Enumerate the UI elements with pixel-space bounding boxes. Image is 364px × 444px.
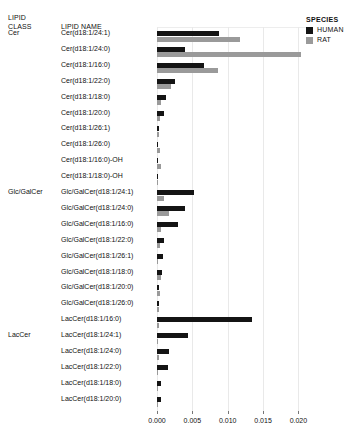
bar-human-Glc/GalCer(d18:1/24:1) <box>157 190 194 195</box>
x-tick-label-0.015: 0.015 <box>254 416 272 425</box>
bar-rat-Cer(d18:1/16:0) <box>157 68 218 73</box>
bar-human-Cer(d18:1/16:0)-OH <box>157 158 158 163</box>
bar-human-Glc/GalCer(d18:1/16:0) <box>157 222 178 227</box>
bar-rat-Glc/GalCer(d18:1/20:0) <box>157 291 160 296</box>
lipid-name-label: LacCer(d18:1/24:1) <box>61 331 121 339</box>
bar-rat-LacCer(d18:1/24:0) <box>157 355 159 360</box>
bar-human-LacCer(d18:1/20:0) <box>157 397 161 402</box>
lipid-class-label-laccer: LacCer <box>8 331 31 339</box>
gridline-0.020 <box>298 27 299 411</box>
lipid-name-label: Glc/GalCer(d18:1/26:0) <box>61 299 133 307</box>
legend-label-human: HUMAN <box>317 26 344 34</box>
lipid-name-label: LacCer(d18:1/20:0) <box>61 395 121 403</box>
bar-rat-Glc/GalCer(d18:1/26:0) <box>157 307 159 312</box>
bar-rat-Glc/GalCer(d18:1/18:0) <box>157 275 161 280</box>
column-header-lipid-class-line1: LIPID <box>8 14 56 23</box>
legend-item-human[interactable]: HUMAN <box>306 26 364 34</box>
lipid-name-label: Cer(d18:1/24:0) <box>61 45 110 53</box>
lipid-name-label: Cer(d18:1/18:0)-OH <box>61 172 123 180</box>
chart-root: LIPID CLASS LIPID NAME CerGlc/GalCerLacC… <box>0 0 364 444</box>
bar-rat-Glc/GalCer(d18:1/26:1) <box>157 259 158 264</box>
bar-rat-Glc/GalCer(d18:1/22:0) <box>157 243 160 248</box>
bar-human-Cer(d18:1/26:0) <box>157 142 158 147</box>
bar-rat-Glc/GalCer(d18:1/16:0) <box>157 227 161 232</box>
bar-rat-Glc/GalCer(d18:1/24:1) <box>157 196 164 201</box>
x-axis: 0.0000.0050.0100.0150.020 <box>157 411 309 435</box>
lipid-name-label: Glc/GalCer(d18:1/22:0) <box>61 236 133 244</box>
lipid-name-label: LacCer(d18:1/22:0) <box>61 363 121 371</box>
x-tick-0.010 <box>228 411 229 414</box>
legend-item-rat[interactable]: RAT <box>306 36 364 44</box>
bar-human-Cer(d18:1/18:0) <box>157 95 166 100</box>
lipid-name-label: Glc/GalCer(d18:1/24:1) <box>61 188 133 196</box>
lipid-name-label: Cer(d18:1/20:0) <box>61 109 110 117</box>
lipid-name-label: Glc/GalCer(d18:1/26:1) <box>61 252 133 260</box>
bar-human-Glc/GalCer(d18:1/22:0) <box>157 238 164 243</box>
legend-label-rat: RAT <box>317 36 331 44</box>
lipid-name-label: LacCer(d18:1/16:0) <box>61 315 121 323</box>
plot-area <box>157 27 309 411</box>
bar-human-Cer(d18:1/16:0) <box>157 63 204 68</box>
x-tick-label-0.005: 0.005 <box>184 416 202 425</box>
lipid-class-label-cer: Cer <box>8 29 19 37</box>
lipid-name-label: Glc/GalCer(d18:1/16:0) <box>61 220 133 228</box>
bar-human-Glc/GalCer(d18:1/20:0) <box>157 285 159 290</box>
lipid-name-label: LacCer(d18:1/18:0) <box>61 379 121 387</box>
bar-human-LacCer(d18:1/16:0) <box>157 317 252 322</box>
bar-human-Glc/GalCer(d18:1/26:1) <box>157 254 163 259</box>
bar-human-LacCer(d18:1/24:0) <box>157 349 169 354</box>
x-tick-0.000 <box>157 411 158 414</box>
bar-rat-Cer(d18:1/24:1) <box>157 37 240 42</box>
lipid-name-label: Cer(d18:1/26:1) <box>61 124 110 132</box>
bar-human-Cer(d18:1/24:1) <box>157 31 219 36</box>
bar-human-Glc/GalCer(d18:1/18:0) <box>157 270 162 275</box>
bar-rat-Cer(d18:1/26:1) <box>157 132 159 137</box>
lipid-name-label: Cer(d18:1/16:0)-OH <box>61 156 123 164</box>
bar-rat-Cer(d18:1/22:0) <box>157 84 171 89</box>
lipid-name-label: Glc/GalCer(d18:1/20:0) <box>61 283 133 291</box>
bar-rat-Cer(d18:1/20:0) <box>157 116 160 121</box>
bar-human-LacCer(d18:1/18:0) <box>157 381 161 386</box>
bar-rat-Cer(d18:1/26:0) <box>157 148 160 153</box>
lipid-name-label: Cer(d18:1/22:0) <box>61 77 110 85</box>
x-tick-0.020 <box>298 411 299 414</box>
lipid-name-label: LacCer(d18:1/24:0) <box>61 347 121 355</box>
x-tick-0.005 <box>192 411 193 414</box>
legend-items: HUMANRAT <box>306 26 364 44</box>
bar-rat-Cer(d18:1/18:0)-OH <box>157 180 158 185</box>
lipid-class-label-glc-galcer: Glc/GalCer <box>8 188 43 196</box>
gridline-0.010 <box>228 27 229 411</box>
bar-human-Glc/GalCer(d18:1/26:0) <box>157 301 159 306</box>
gridline-0.005 <box>192 27 193 411</box>
x-tick-label-0.000: 0.000 <box>148 416 166 425</box>
bar-human-Cer(d18:1/26:1) <box>157 126 159 131</box>
legend-swatch-rat <box>306 37 313 44</box>
x-tick-0.015 <box>263 411 264 414</box>
bar-human-Cer(d18:1/22:0) <box>157 79 175 84</box>
legend-title: SPECIES <box>306 16 364 23</box>
legend-swatch-human <box>306 27 313 34</box>
bar-human-Cer(d18:1/18:0)-OH <box>157 174 158 179</box>
bar-rat-Glc/GalCer(d18:1/24:0) <box>157 211 169 216</box>
bar-human-LacCer(d18:1/24:1) <box>157 333 188 338</box>
bar-human-Cer(d18:1/20:0) <box>157 111 164 116</box>
bar-rat-LacCer(d18:1/18:0) <box>157 386 158 391</box>
legend: SPECIES HUMANRAT <box>306 16 364 46</box>
bar-human-LacCer(d18:1/22:0) <box>157 365 168 370</box>
bar-human-Glc/GalCer(d18:1/24:0) <box>157 206 185 211</box>
lipid-name-label: Cer(d18:1/18:0) <box>61 93 110 101</box>
bar-rat-LacCer(d18:1/20:0) <box>157 402 158 407</box>
x-tick-label-0.020: 0.020 <box>290 416 308 425</box>
bar-rat-LacCer(d18:1/16:0) <box>157 323 159 328</box>
bar-rat-Cer(d18:1/24:0) <box>157 52 301 57</box>
plot-top-border <box>157 27 309 28</box>
bar-rat-Cer(d18:1/16:0)-OH <box>157 164 161 169</box>
bar-human-Cer(d18:1/24:0) <box>157 47 185 52</box>
gridline-0.015 <box>263 27 264 411</box>
lipid-name-label: Cer(d18:1/24:1) <box>61 29 110 37</box>
bar-rat-LacCer(d18:1/22:0) <box>157 370 158 375</box>
bar-rat-LacCer(d18:1/24:1) <box>157 339 158 344</box>
lipid-name-label: Glc/GalCer(d18:1/24:0) <box>61 204 133 212</box>
lipid-name-label: Glc/GalCer(d18:1/18:0) <box>61 268 133 276</box>
x-tick-label-0.010: 0.010 <box>219 416 237 425</box>
